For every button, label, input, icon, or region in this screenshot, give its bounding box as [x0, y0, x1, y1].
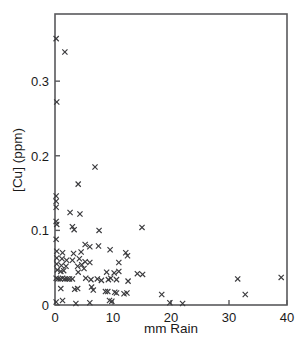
data-point — [62, 49, 67, 54]
data-point — [83, 276, 88, 281]
data-point — [96, 243, 101, 248]
x-tick-label: 10 — [106, 310, 120, 325]
data-point — [140, 272, 145, 277]
data-point — [135, 271, 140, 276]
data-point — [116, 260, 121, 265]
data-point — [60, 250, 65, 255]
data-point — [76, 182, 81, 187]
data-point — [125, 279, 130, 284]
data-point — [67, 210, 72, 215]
data-point — [87, 260, 92, 265]
data-point — [235, 276, 240, 281]
data-point — [88, 277, 93, 282]
data-point — [92, 164, 97, 169]
data-point — [59, 256, 64, 261]
x-tick-label: 0 — [51, 310, 58, 325]
plot-canvas: 010203040 00.10.20.3 mm Rain [Cu] (ppm) — [0, 0, 306, 340]
data-point — [112, 270, 117, 275]
data-point — [108, 247, 113, 252]
data-point — [71, 251, 76, 256]
data-point — [79, 249, 84, 254]
y-tick-label: 0.1 — [31, 223, 49, 238]
data-point — [60, 298, 65, 303]
data-point — [243, 292, 248, 297]
y-axis-tick-labels: 00.10.20.3 — [31, 74, 49, 313]
data-point — [77, 256, 82, 261]
x-axis-title: mm Rain — [144, 321, 198, 336]
data-point-markers — [54, 36, 284, 306]
y-tick-label: 0.3 — [31, 74, 49, 89]
x-tick-label: 40 — [280, 310, 294, 325]
data-point — [279, 275, 284, 280]
data-point — [96, 228, 101, 233]
data-point — [108, 276, 113, 281]
data-point — [159, 292, 164, 297]
data-point — [70, 276, 75, 281]
data-point — [77, 211, 82, 216]
data-point — [58, 286, 63, 291]
y-axis-title: [Cu] (ppm) — [10, 128, 25, 192]
scatter-plot-figure: 010203040 00.10.20.3 mm Rain [Cu] (ppm) — [0, 0, 306, 340]
data-point — [104, 270, 109, 275]
data-point — [139, 225, 144, 230]
data-point — [114, 277, 119, 282]
data-point — [70, 258, 75, 263]
data-point — [64, 258, 69, 263]
plot-frame — [55, 14, 287, 305]
y-tick-label: 0 — [42, 298, 49, 313]
x-tick-label: 30 — [222, 310, 236, 325]
y-tick-label: 0.2 — [31, 149, 49, 164]
data-point — [116, 269, 121, 274]
data-point — [76, 270, 81, 275]
